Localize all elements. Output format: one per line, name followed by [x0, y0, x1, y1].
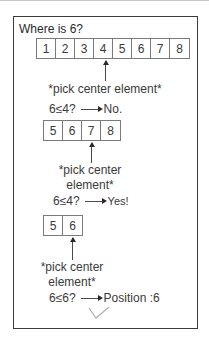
array-cell: 7	[151, 39, 170, 58]
array-cell: 4	[94, 39, 113, 58]
arrow-right-icon	[81, 298, 101, 299]
comparison-text: 6≤4?	[49, 102, 76, 116]
result-text: Yes!	[108, 195, 129, 207]
note-pick-center: *pick center element*	[22, 260, 122, 290]
note-line: *pick center	[22, 260, 122, 275]
arrow-right-icon	[85, 201, 105, 202]
checkmark-icon	[88, 306, 110, 320]
array-cell: 6	[63, 216, 82, 235]
comparison-step-2: 6≤4? Yes!	[53, 194, 129, 208]
comparison-step-1: 6≤4? No.	[49, 102, 122, 116]
top-divider	[0, 0, 209, 1]
array-step-2: 5 6 7 8	[43, 120, 121, 141]
array-cell: 6	[63, 121, 82, 140]
array-cell: 5	[44, 121, 63, 140]
array-step-1: 1 2 3 4 5 6 7 8	[36, 38, 190, 59]
comparison-step-3: 6≤6? Position :6	[49, 291, 160, 305]
note-line: *pick center	[40, 163, 140, 178]
array-cell: 6	[132, 39, 151, 58]
note-pick-center: *pick center element*	[35, 82, 175, 97]
array-cell: 2	[56, 39, 75, 58]
array-cell: 7	[82, 121, 101, 140]
array-step-3: 5 6	[43, 215, 83, 236]
array-cell: 5	[44, 216, 63, 235]
arrow-up-icon	[105, 61, 106, 81]
array-cell: 3	[75, 39, 94, 58]
array-cell: 1	[37, 39, 56, 58]
array-cell: 5	[113, 39, 132, 58]
result-text: No.	[104, 102, 123, 116]
comparison-text: 6≤6?	[49, 291, 76, 305]
diagram-title: Where is 6?	[19, 22, 83, 36]
note-pick-center: *pick center element*	[40, 163, 140, 193]
comparison-text: 6≤4?	[53, 194, 80, 208]
result-text: Position :6	[104, 291, 160, 305]
note-line: element*	[40, 178, 140, 193]
array-cell: 8	[170, 39, 189, 58]
note-line: element*	[22, 275, 122, 290]
arrow-right-icon	[81, 109, 101, 110]
arrow-up-icon	[91, 143, 92, 163]
arrow-up-icon	[72, 238, 73, 260]
array-cell: 8	[101, 121, 120, 140]
